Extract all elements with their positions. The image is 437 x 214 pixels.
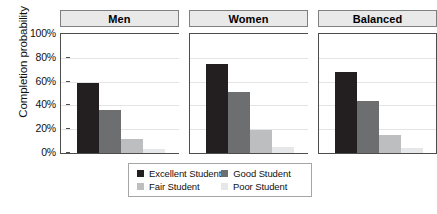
y-axis-tick-label: 0%	[16, 147, 56, 157]
legend-item-good-student[interactable]: Good Student	[221, 168, 305, 179]
legend-label: Fair Student	[149, 181, 200, 192]
y-axis-tick-label: 20%	[16, 123, 56, 133]
panel-header-strip: Women	[189, 10, 308, 27]
bar-group	[190, 34, 308, 153]
bar-poor-student	[143, 149, 165, 153]
bar-poor-student	[401, 148, 423, 153]
y-axis-tick-label: 60%	[16, 76, 56, 86]
panel-header-strip: Men	[60, 10, 179, 27]
y-axis-tick-label: 100%	[16, 28, 56, 38]
legend-swatch-icon	[221, 170, 228, 177]
bar-good-student	[228, 92, 250, 153]
panel-title: Men	[108, 13, 130, 25]
legend-item-fair-student[interactable]: Fair Student	[137, 181, 221, 192]
legend-swatch-icon	[221, 183, 228, 190]
panel-title: Balanced	[353, 13, 403, 25]
panel-plot-body	[189, 33, 308, 154]
legend-item-poor-student[interactable]: Poor Student	[221, 181, 305, 192]
bar-fair-student	[379, 135, 401, 153]
panel-title: Women	[228, 13, 268, 25]
legend-item-excellent-student[interactable]: Excellent Student	[137, 168, 221, 179]
legend-label: Excellent Student	[149, 168, 221, 179]
bar-good-student	[357, 101, 379, 153]
bar-excellent-student	[206, 64, 228, 153]
legend-label: Good Student	[233, 168, 290, 179]
panel-women: Women	[189, 0, 308, 160]
bar-poor-student	[272, 147, 294, 153]
bar-fair-student	[250, 130, 272, 153]
bar-excellent-student	[335, 72, 357, 153]
panel-header-strip: Balanced	[318, 10, 437, 27]
panel-men: Men	[60, 0, 179, 160]
legend-row: Fair StudentPoor Student	[137, 180, 305, 193]
completion-probability-chart: Completion probability 100%80%60%40%20%0…	[0, 0, 437, 214]
legend-swatch-icon	[137, 183, 144, 190]
y-axis-tick-label: 40%	[16, 99, 56, 109]
panel-plot-body	[60, 33, 179, 154]
y-axis-tick-label: 80%	[16, 52, 56, 62]
legend-label: Poor Student	[233, 181, 287, 192]
plot-area: Completion probability 100%80%60%40%20%0…	[0, 0, 437, 160]
bar-group	[319, 34, 436, 153]
legend-swatch-icon	[137, 170, 144, 177]
bar-group	[61, 34, 179, 153]
chart-legend: Excellent StudentGood StudentFair Studen…	[128, 163, 312, 197]
legend-row: Excellent StudentGood Student	[137, 167, 305, 180]
panel-plot-body	[318, 33, 437, 154]
y-axis-ticks: 100%80%60%40%20%0%	[10, 0, 56, 160]
bar-good-student	[99, 110, 121, 153]
bar-fair-student	[121, 139, 143, 153]
panel-row: MenWomenBalanced	[60, 0, 437, 160]
bar-excellent-student	[77, 83, 99, 153]
panel-balanced: Balanced	[318, 0, 437, 160]
